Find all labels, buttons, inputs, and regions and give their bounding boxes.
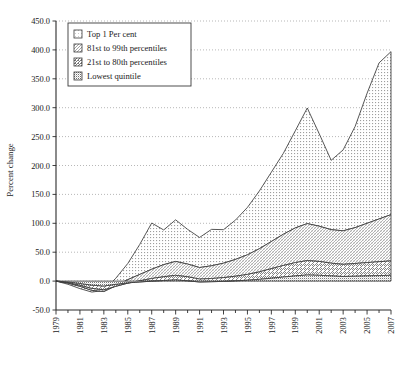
y-tick-label: 350.0 — [31, 75, 50, 84]
legend-swatch — [74, 30, 82, 38]
x-tick-label: 1981 — [76, 317, 85, 334]
x-tick-label: 1983 — [100, 317, 109, 334]
y-tick-label: 450.0 — [31, 17, 50, 26]
x-tick-label: 1985 — [124, 317, 133, 334]
y-tick-label: 0.0 — [40, 277, 50, 286]
x-tick-label: 2007 — [387, 317, 396, 334]
x-axis-ticks — [56, 310, 391, 315]
x-tick-label: 1979 — [52, 317, 61, 334]
area-chart: -50.00.050.0100.0150.0200.0250.0300.0350… — [0, 0, 410, 373]
y-tick-label: 50.0 — [35, 248, 50, 257]
y-tick-label: 300.0 — [31, 104, 50, 113]
y-tick-label: 250.0 — [31, 133, 50, 142]
x-axis-tick-labels: 1979198119831985198719891991199319951997… — [52, 317, 396, 334]
legend-label: Top 1 Per cent — [87, 29, 137, 39]
x-tick-label: 1987 — [148, 317, 157, 334]
legend-swatch — [74, 44, 82, 52]
legend-label: 21st to 80th percentiles — [87, 57, 168, 67]
y-tick-label: 150.0 — [31, 190, 50, 199]
x-tick-label: 1995 — [244, 317, 253, 334]
y-tick-label: 100.0 — [31, 219, 50, 228]
x-tick-label: 1993 — [220, 317, 229, 334]
x-tick-label: 1997 — [268, 317, 277, 334]
x-tick-label: 1989 — [172, 317, 181, 334]
legend-label: Lowest quintile — [87, 71, 141, 81]
y-tick-label: 200.0 — [31, 162, 50, 171]
y-tick-label: 400.0 — [31, 46, 50, 55]
legend-swatch — [74, 58, 82, 66]
y-axis-title: Percent change — [5, 143, 15, 197]
x-tick-label: 1999 — [291, 317, 300, 334]
y-axis-tick-labels: -50.00.050.0100.0150.0200.0250.0300.0350… — [31, 17, 50, 315]
y-tick-label: -50.0 — [33, 306, 50, 315]
x-tick-label: 1991 — [196, 317, 205, 334]
x-tick-label: 2001 — [315, 317, 324, 334]
chart-legend: Top 1 Per cent81st to 99th percentiles21… — [68, 23, 191, 86]
x-tick-label: 2005 — [363, 317, 372, 334]
legend-swatch — [74, 72, 82, 80]
stacked-areas — [56, 52, 391, 292]
chart-container: -50.00.050.0100.0150.0200.0250.0300.0350… — [0, 0, 410, 373]
x-tick-label: 2003 — [339, 317, 348, 334]
legend-label: 81st to 99th percentiles — [87, 43, 168, 53]
